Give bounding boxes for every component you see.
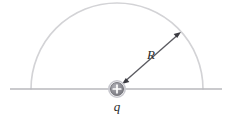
physics-diagram-figure: R q: [0, 0, 232, 116]
diagram-canvas: R q: [0, 0, 232, 116]
radius-label: R: [146, 47, 155, 62]
hemisphere-arc: [31, 3, 203, 89]
charge-label: q: [114, 99, 121, 114]
